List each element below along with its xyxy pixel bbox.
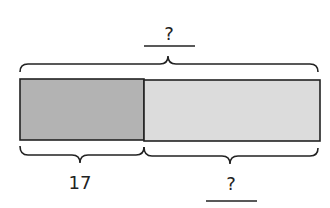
unknown-part-label: ? [226,173,236,194]
known-part-label: 17 [69,172,92,193]
total-label: ? [164,23,174,44]
part-known [20,79,144,140]
total-brace [20,56,318,72]
part-unknown [144,80,320,141]
known-brace [20,146,144,163]
unknown-brace [144,147,318,164]
tape-diagram: ? 17 ? [0,0,330,208]
